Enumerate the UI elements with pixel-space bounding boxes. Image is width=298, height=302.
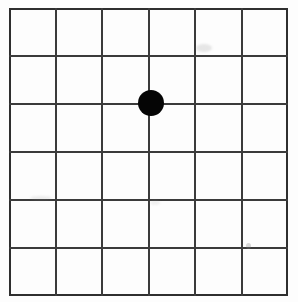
- grid-horizontal-line-4: [9, 199, 288, 201]
- grid-horizontal-line-3: [9, 151, 288, 153]
- amsler-grid-figure: [9, 8, 288, 296]
- fixation-dot-marker: [138, 90, 164, 116]
- grid-chart-page: [0, 0, 298, 302]
- grid-horizontal-line-5: [9, 247, 288, 249]
- grid-horizontal-line-1: [9, 55, 288, 57]
